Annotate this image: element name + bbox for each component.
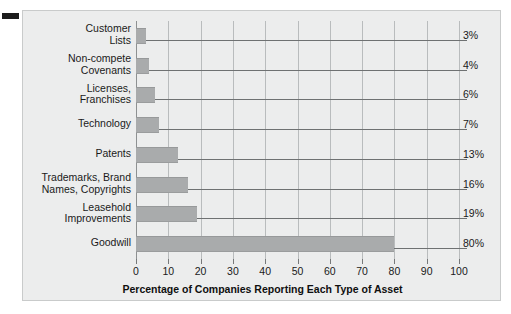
bar — [136, 28, 146, 44]
value-label: 16% — [463, 179, 484, 190]
value-label: 19% — [463, 208, 484, 219]
leader-line — [178, 159, 467, 160]
x-tick-label: 40 — [259, 265, 271, 277]
gridline-100 — [459, 21, 460, 259]
value-label: 3% — [463, 30, 478, 41]
leader-line — [159, 129, 467, 130]
value-label: 80% — [463, 238, 484, 249]
x-tick — [394, 259, 395, 264]
bar — [136, 117, 159, 133]
x-tick — [233, 259, 234, 264]
value-label: 6% — [463, 89, 478, 100]
x-tick-label: 0 — [133, 265, 139, 277]
category-label: Trademarks, Brand Names, Copyrights — [42, 172, 131, 195]
bar — [136, 206, 197, 222]
category-label: Patents — [95, 148, 131, 160]
x-tick — [265, 259, 266, 264]
x-tick-label: 20 — [195, 265, 207, 277]
bar-row — [136, 87, 459, 103]
x-tick-label: 60 — [324, 265, 336, 277]
value-label: 4% — [463, 60, 478, 71]
category-label: Technology — [78, 118, 131, 130]
value-label: 7% — [463, 119, 478, 130]
x-tick — [459, 259, 460, 264]
leader-line — [188, 189, 467, 190]
category-label: Leasehold Improvements — [64, 202, 131, 225]
bar — [136, 58, 149, 74]
x-tick — [168, 259, 169, 264]
plot-area — [136, 21, 459, 259]
x-tick-label: 30 — [227, 265, 239, 277]
leader-line — [394, 248, 467, 249]
category-label: Goodwill — [91, 237, 131, 249]
category-label: Non-compete Covenants — [68, 53, 131, 76]
bar-row — [136, 58, 459, 74]
x-tick-label: 10 — [162, 265, 174, 277]
leader-line — [155, 99, 467, 100]
x-axis-title: Percentage of Companies Reporting Each T… — [23, 283, 502, 295]
leader-line — [197, 218, 467, 219]
leader-line — [146, 40, 467, 41]
bar — [136, 147, 178, 163]
category-label: Customer Lists — [85, 23, 131, 46]
leader-line — [149, 70, 467, 71]
x-tick — [362, 259, 363, 264]
bar — [136, 236, 394, 252]
x-tick — [298, 259, 299, 264]
chart-panel: Customer ListsNon-compete CovenantsLicen… — [22, 10, 501, 301]
x-tick — [201, 259, 202, 264]
x-tick-label: 80 — [389, 265, 401, 277]
bar-row — [136, 28, 459, 44]
value-labels: 3%4%6%7%13%16%19%80% — [463, 21, 502, 259]
x-tick — [330, 259, 331, 264]
x-tick — [136, 259, 137, 264]
category-axis-labels: Customer ListsNon-compete CovenantsLicen… — [23, 21, 131, 259]
bar-row — [136, 147, 459, 163]
x-tick — [427, 259, 428, 264]
corner-mark — [2, 13, 19, 19]
bar-row — [136, 206, 459, 222]
x-tick-label: 100 — [450, 265, 468, 277]
bar-row — [136, 117, 459, 133]
x-tick-label: 50 — [292, 265, 304, 277]
category-label: Licenses, Franchises — [80, 83, 131, 106]
x-axis: 0102030405060708090100 — [136, 259, 459, 281]
x-tick-label: 70 — [356, 265, 368, 277]
bar — [136, 87, 155, 103]
bar-row — [136, 177, 459, 193]
value-label: 13% — [463, 149, 484, 160]
bar-row — [136, 236, 459, 252]
bar — [136, 177, 188, 193]
x-tick-label: 90 — [421, 265, 433, 277]
